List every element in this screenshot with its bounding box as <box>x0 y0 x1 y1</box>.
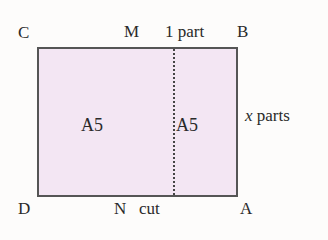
side-annotation: x parts <box>245 107 290 124</box>
fold-line-mn <box>173 49 175 195</box>
corner-label-a: A <box>240 200 252 217</box>
midpoint-label-m: M <box>124 23 139 40</box>
region-label-right: A5 <box>176 116 198 134</box>
region-label-left: A5 <box>81 116 103 134</box>
side-text: parts <box>257 106 290 125</box>
corner-label-b: B <box>237 23 248 40</box>
corner-label-d: D <box>18 200 30 217</box>
top-annotation: 1 part <box>165 23 204 40</box>
midpoint-label-n: N <box>114 200 126 217</box>
a4-rectangle: A5 A5 <box>37 47 238 197</box>
bottom-annotation: cut <box>139 200 160 217</box>
side-variable: x <box>245 106 253 125</box>
corner-label-c: C <box>18 24 29 41</box>
